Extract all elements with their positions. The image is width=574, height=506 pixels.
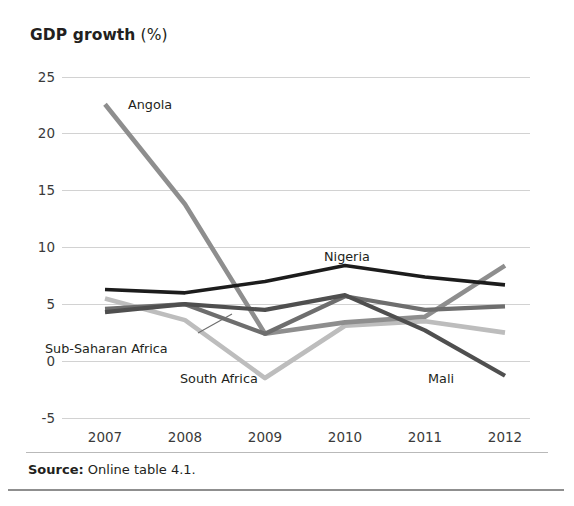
y-tick-20: 20 [38, 125, 55, 141]
series-label-sub-saharan-africa: Sub-Saharan Africa [45, 341, 168, 356]
y-tick-15: 15 [38, 182, 55, 198]
source-label: Source: [28, 462, 84, 477]
series-line-nigeria [105, 266, 505, 293]
figure-panel: GDP growth (%) 25 20 15 10 5 0 -5 2007 2… [0, 0, 574, 506]
x-tick-2011: 2011 [408, 429, 442, 445]
series-label-nigeria: Nigeria [324, 249, 370, 264]
source-text: Online table 4.1. [84, 462, 196, 477]
gridlines [62, 77, 530, 418]
y-tick-25: 25 [38, 69, 55, 85]
x-tick-2008: 2008 [168, 429, 202, 445]
y-tick-minus5: -5 [42, 410, 55, 426]
series-line-angola [105, 104, 505, 333]
series-label-mali: Mali [428, 371, 454, 386]
y-tick-5: 5 [46, 296, 55, 312]
x-tick-2012: 2012 [488, 429, 522, 445]
source-note: Source: Online table 4.1. [28, 462, 548, 477]
series-label-angola: Angola [128, 97, 172, 112]
line-chart: 25 20 15 10 5 0 -5 2007 2008 2009 2010 2… [0, 0, 574, 450]
source-divider-top [26, 452, 548, 453]
x-tick-2007: 2007 [88, 429, 122, 445]
series-label-south-africa: South Africa [180, 371, 258, 386]
x-tick-2009: 2009 [248, 429, 282, 445]
series-annotations: AngolaNigeriaSub-Saharan AfricaSouth Afr… [45, 97, 454, 386]
y-axis-tick-labels: 25 20 15 10 5 0 -5 [38, 69, 55, 426]
x-tick-2010: 2010 [328, 429, 362, 445]
y-tick-10: 10 [38, 239, 55, 255]
series-lines [105, 104, 505, 378]
figure-divider-bottom [8, 489, 564, 491]
x-axis-tick-labels: 2007 2008 2009 2010 2011 2012 [88, 429, 522, 445]
